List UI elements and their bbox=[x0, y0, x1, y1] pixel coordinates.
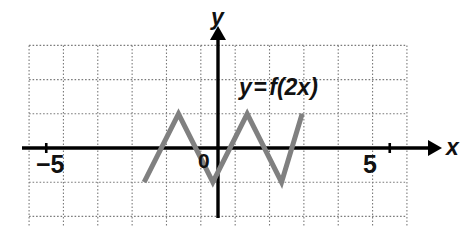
axes bbox=[22, 26, 442, 218]
x-axis-arrowhead bbox=[428, 140, 442, 156]
x-tick-label-neg5: −5 bbox=[36, 152, 65, 177]
x-tick-label-pos5: 5 bbox=[363, 152, 377, 177]
origin-label: 0 bbox=[198, 150, 210, 171]
equation-lhs: y bbox=[239, 74, 252, 100]
equation-label: y=f(2x) bbox=[239, 76, 318, 99]
graph-figure: −5 5 0 y x y=f(2x) bbox=[0, 0, 468, 227]
equation-rhs: f(2x) bbox=[269, 74, 318, 100]
y-axis-label: y bbox=[211, 6, 224, 29]
coordinate-plane-svg bbox=[0, 0, 468, 227]
x-axis-label: x bbox=[446, 136, 459, 159]
equation-operator: = bbox=[252, 74, 269, 100]
